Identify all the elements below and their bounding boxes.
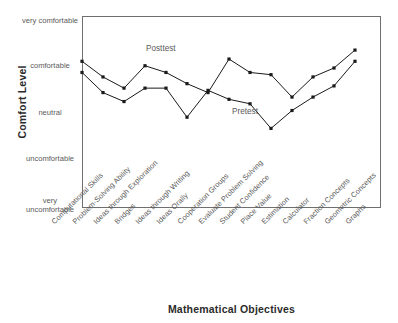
x-axis-tick-labels: Computational SkillsProblem-Solving Abil… (0, 0, 398, 323)
x-axis-title: Mathematical Objectives (82, 303, 381, 315)
comfort-level-line-chart: Comfort Level very comfortable comfortab… (0, 0, 398, 323)
